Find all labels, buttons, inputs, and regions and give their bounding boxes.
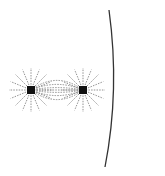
curved-surface-line [105, 10, 114, 167]
charge-left [27, 86, 35, 94]
field-lines-diagram [0, 0, 165, 176]
diagram-canvas [0, 0, 165, 176]
charge-right [79, 86, 87, 94]
